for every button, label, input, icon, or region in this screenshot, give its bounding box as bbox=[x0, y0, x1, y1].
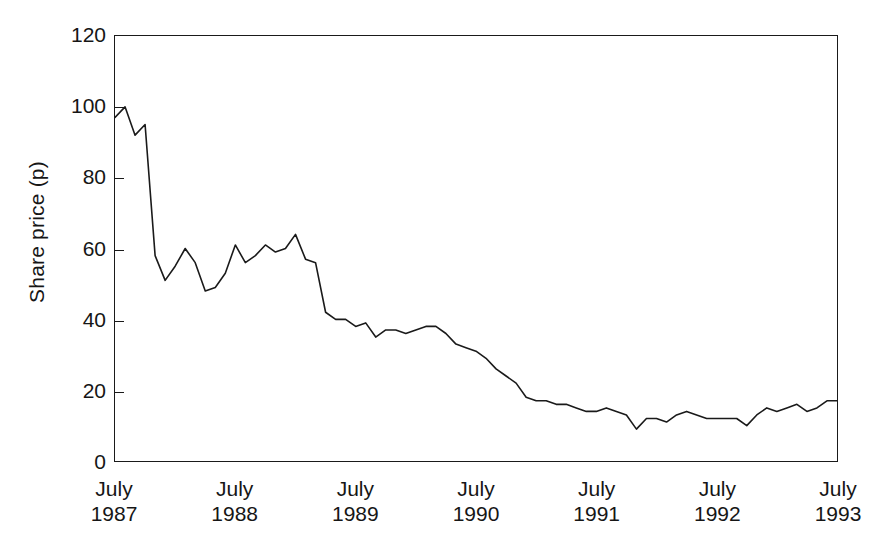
x-tick-month: July bbox=[91, 476, 138, 501]
y-tick-label: 120 bbox=[48, 24, 106, 45]
x-tick-month: July bbox=[573, 476, 620, 501]
x-tick-year: 1989 bbox=[332, 501, 379, 526]
x-tick-label: July1991 bbox=[573, 476, 620, 526]
y-tick-label: 80 bbox=[48, 166, 106, 187]
y-tick-label: 40 bbox=[48, 309, 106, 330]
x-tick-label: July1993 bbox=[815, 476, 862, 526]
y-tick-mark bbox=[115, 107, 124, 108]
x-tick-label: July1990 bbox=[453, 476, 500, 526]
y-tick-label: 60 bbox=[48, 238, 106, 259]
y-tick-mark bbox=[115, 250, 124, 251]
share-price-line-series bbox=[115, 36, 837, 461]
x-tick-month: July bbox=[694, 476, 741, 501]
x-tick-year: 1988 bbox=[211, 501, 258, 526]
x-tick-label: July1992 bbox=[694, 476, 741, 526]
x-tick-year: 1991 bbox=[573, 501, 620, 526]
x-tick-month: July bbox=[211, 476, 258, 501]
y-tick-label: 20 bbox=[48, 380, 106, 401]
x-tick-label: July1988 bbox=[211, 476, 258, 526]
y-tick-label: 100 bbox=[48, 95, 106, 116]
x-tick-month: July bbox=[332, 476, 379, 501]
x-tick-year: 1990 bbox=[453, 501, 500, 526]
plot-area bbox=[114, 35, 838, 462]
y-tick-mark bbox=[115, 321, 124, 322]
x-tick-year: 1992 bbox=[694, 501, 741, 526]
y-tick-label: 0 bbox=[48, 451, 106, 472]
series-polyline bbox=[115, 107, 837, 429]
x-tick-month: July bbox=[453, 476, 500, 501]
y-axis-tick-labels: 020406080100120 bbox=[48, 0, 106, 557]
share-price-chart: Share price (p) 020406080100120 July1987… bbox=[0, 0, 891, 557]
x-tick-label: July1987 bbox=[91, 476, 138, 526]
x-tick-year: 1993 bbox=[815, 501, 862, 526]
y-tick-mark bbox=[115, 392, 124, 393]
x-tick-label: July1989 bbox=[332, 476, 379, 526]
y-tick-mark bbox=[115, 178, 124, 179]
x-tick-month: July bbox=[815, 476, 862, 501]
x-tick-year: 1987 bbox=[91, 501, 138, 526]
x-axis-tick-labels: July1987July1988July1989July1990July1991… bbox=[114, 476, 838, 546]
